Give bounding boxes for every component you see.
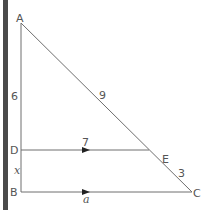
segment-label-DE: 7 — [82, 136, 89, 149]
segment-label-BC: a — [83, 193, 90, 206]
segment-label-AE: 9 — [99, 89, 106, 102]
vertex-label-A: A — [16, 12, 24, 25]
segment-label-EC: 3 — [178, 167, 185, 180]
vertex-label-D: D — [10, 144, 18, 157]
side-AC — [21, 23, 192, 192]
vertex-label-E: E — [162, 153, 169, 166]
vertex-label-C: C — [193, 187, 201, 200]
segment-label-DB: x — [14, 164, 21, 177]
triangle-diagram: A D B C E 6 9 7 x 3 a — [0, 0, 213, 210]
vertex-label-B: B — [10, 186, 18, 199]
segment-label-AD: 6 — [11, 90, 18, 103]
